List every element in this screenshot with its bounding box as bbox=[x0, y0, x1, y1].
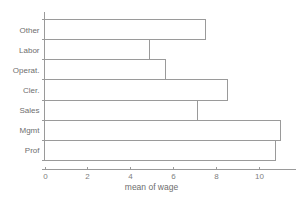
x-tick-label: 10 bbox=[255, 172, 264, 181]
category-label-cler: Cler. bbox=[23, 86, 39, 95]
bar-prof bbox=[45, 140, 276, 160]
category-label-prof: Prof bbox=[25, 146, 40, 155]
chart-canvas: OtherLaborOperat.Cler.SalesMgmtProf02468… bbox=[0, 0, 303, 207]
x-ticks-group: 0246810 bbox=[43, 167, 264, 181]
category-label-sales: Sales bbox=[19, 106, 39, 115]
category-label-other: Other bbox=[19, 26, 39, 35]
bars-group bbox=[45, 20, 281, 161]
bar-labor bbox=[45, 40, 150, 60]
bar-cler bbox=[45, 80, 228, 100]
x-tick-label: 4 bbox=[128, 172, 133, 181]
bar-sales bbox=[45, 100, 198, 120]
bar-mgmt bbox=[45, 120, 281, 140]
category-label-operat: Operat. bbox=[13, 66, 40, 75]
bar-other bbox=[45, 20, 206, 40]
category-labels-group: OtherLaborOperat.Cler.SalesMgmtProf bbox=[13, 26, 40, 156]
x-tick-label: 0 bbox=[43, 172, 48, 181]
x-tick-label: 2 bbox=[85, 172, 90, 181]
x-tick-label: 6 bbox=[171, 172, 176, 181]
bar-operat bbox=[45, 60, 166, 80]
x-axis-title: mean of wage bbox=[125, 182, 179, 192]
bar-chart-figure: OtherLaborOperat.Cler.SalesMgmtProf02468… bbox=[0, 0, 303, 207]
x-tick-label: 8 bbox=[214, 172, 219, 181]
category-label-mgmt: Mgmt bbox=[20, 126, 41, 135]
axes-group bbox=[42, 12, 297, 170]
category-label-labor: Labor bbox=[19, 46, 40, 55]
